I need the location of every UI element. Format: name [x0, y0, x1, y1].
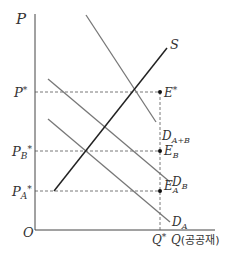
supply-label: S: [170, 37, 179, 52]
y-axis-label: P: [15, 10, 27, 28]
supply-curve: [54, 48, 167, 191]
x-axis-label: Q(공공재): [171, 233, 219, 247]
point-e-star: [158, 90, 162, 94]
origin-label: O: [23, 225, 34, 240]
demand-curve-b: [48, 79, 170, 182]
public-good-diagram: P O Q(공공재) P* PB* PA* Q* S DA+B DB DA E*…: [0, 0, 230, 260]
pa-star-label: PA*: [11, 184, 32, 201]
point-e-a: [158, 189, 162, 193]
pb-star-label: PB*: [11, 144, 32, 161]
e-b-label: EB: [163, 144, 179, 160]
demand-a-label: DA: [171, 215, 188, 231]
e-star-label: E*: [163, 85, 178, 100]
demand-a-plus-b-label: DA+B: [161, 129, 190, 145]
point-e-b: [158, 149, 162, 153]
q-star-label: Q*: [152, 232, 167, 247]
demand-curve-a: [48, 119, 170, 222]
p-star-label: P*: [13, 85, 28, 100]
